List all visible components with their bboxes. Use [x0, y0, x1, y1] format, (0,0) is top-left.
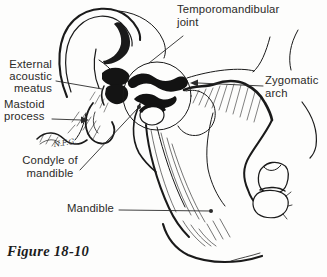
antihelix-line	[94, 49, 99, 88]
label-condyle-of-mandible: Condyle of mandible	[12, 154, 88, 180]
label-line: acoustic	[0, 70, 52, 82]
label-line: mandible	[12, 167, 88, 180]
molar-teeth	[253, 162, 292, 219]
label-zygomatic-arch: Zygomatic arch	[265, 74, 318, 100]
leader-condyle-of-mandible	[80, 105, 141, 170]
figure-caption: Figure 18-10	[7, 243, 89, 260]
label-mastoid-process: Mastoid process	[4, 98, 45, 123]
external-acoustic-meatus-shading	[102, 68, 129, 104]
label-line: process	[4, 110, 45, 122]
label-line: Condyle of	[12, 154, 88, 167]
label-line: Mandible	[67, 202, 114, 215]
label-line: joint	[177, 16, 279, 29]
anatomy-illustration: N.F.G.	[0, 0, 327, 277]
label-line: Mastoid	[4, 98, 45, 110]
skull-outline	[290, 30, 298, 70]
condyle-head	[139, 104, 166, 125]
label-line: External	[0, 58, 52, 70]
label-line: Zygomatic	[265, 74, 318, 87]
label-mandible: Mandible	[67, 202, 114, 215]
artist-signature: N.F.G.	[52, 136, 77, 149]
label-temporomandibular-joint: Temporomandibular joint	[177, 3, 279, 29]
articular-disc-and-fossa	[128, 74, 188, 109]
label-line: arch	[265, 87, 318, 100]
anatomical-figure: N.F.G. Temporomandibular joint External …	[0, 0, 327, 277]
mandible-body	[163, 224, 262, 262]
leader-mandible	[119, 209, 213, 213]
label-external-acoustic-meatus: External acoustic meatus	[0, 58, 52, 94]
label-line: Temporomandibular	[177, 3, 279, 16]
leader-temporomandibular-joint	[149, 36, 183, 63]
mandibular-fossa-band	[128, 74, 188, 92]
infratemporal-hatching	[193, 84, 261, 122]
label-line: meatus	[0, 82, 52, 94]
